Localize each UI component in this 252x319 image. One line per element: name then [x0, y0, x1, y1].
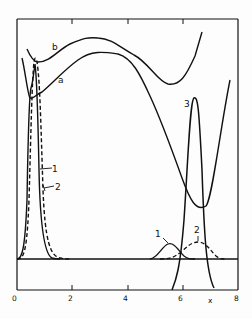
- chart-plot: 0 2 4 6 x 8 b a 1 2: [0, 0, 252, 319]
- label-curve-2-left: 2: [55, 182, 61, 192]
- label-curve-a: a: [58, 75, 64, 85]
- curve-3-peak: [172, 98, 214, 290]
- label-pointers: [40, 168, 198, 243]
- label-curve-1-left: 1: [52, 164, 58, 174]
- curve-b: [27, 32, 202, 84]
- label-curve-2-right: 2: [194, 225, 200, 235]
- label-curve-b: b: [52, 42, 58, 52]
- tick-label-8: 8: [234, 294, 239, 303]
- curve-a: [22, 52, 230, 207]
- tick-label-0: 0: [12, 294, 17, 303]
- label-curve-3: 3: [184, 99, 190, 109]
- curve-1-right-bump: [150, 244, 195, 259]
- x-axis-label: x: [208, 296, 213, 305]
- curve-2-right-bump: [160, 242, 226, 259]
- tick-label-2: 2: [68, 294, 73, 303]
- tick-label-6: 6: [178, 294, 183, 303]
- chart-figure: 0 2 4 6 x 8 b a 1 2: [0, 0, 252, 319]
- label-curve-1-right: 1: [155, 229, 161, 239]
- tick-label-4: 4: [123, 294, 128, 303]
